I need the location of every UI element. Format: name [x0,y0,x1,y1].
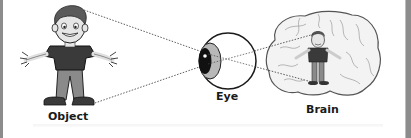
ray-feet-to-eye [92,64,208,104]
diagram-frame: Object Eye Brain [0,0,411,138]
ray-head-to-eye [84,10,208,54]
person-figure-icon [20,6,118,105]
eye-label: Eye [216,90,238,103]
eyeball-icon [199,33,257,89]
object-label: Object [48,110,88,123]
brain-label: Brain [306,103,339,116]
